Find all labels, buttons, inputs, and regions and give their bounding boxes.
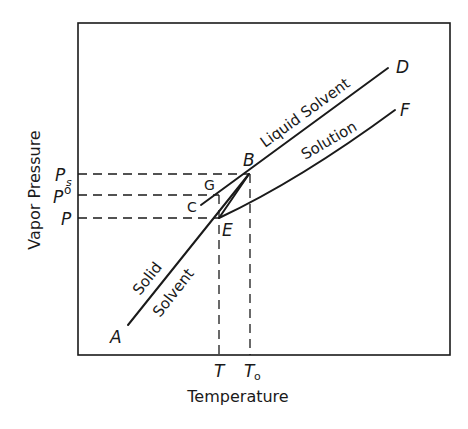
point-e-label: E <box>222 220 233 240</box>
point-f-label: F <box>400 100 410 120</box>
dashed-guides <box>78 174 250 355</box>
svg-text:o: o <box>254 370 261 383</box>
y-tick-p: P <box>61 209 72 229</box>
point-d-label: D <box>396 57 409 77</box>
point-c-label: C <box>187 199 197 215</box>
y-tick-p0: P o <box>53 183 71 207</box>
x-tick-t0: T o <box>244 361 261 383</box>
solid-label: Solid <box>129 259 166 299</box>
plot-frame <box>78 23 450 355</box>
point-b-label: B <box>243 150 255 170</box>
svg-text:P: P <box>55 165 66 185</box>
solid-solvent-curve <box>128 174 249 325</box>
y-axis-label: Vapor Pressure <box>25 130 44 249</box>
svg-text:T: T <box>214 361 226 381</box>
liquid-solvent-curve <box>201 68 388 205</box>
x-axis-label: Temperature <box>186 387 288 406</box>
point-g-label: G <box>204 177 215 193</box>
vapor-pressure-diagram: Temperature Vapor Pressure P s P o P T T… <box>0 0 468 429</box>
svg-text:o: o <box>64 183 71 197</box>
x-tick-t: T <box>214 361 226 381</box>
svg-text:P: P <box>53 187 64 207</box>
point-a-label: A <box>109 327 122 347</box>
svg-text:P: P <box>61 209 72 229</box>
